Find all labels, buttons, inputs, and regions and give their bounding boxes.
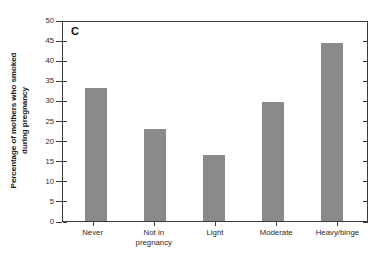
y-tick-label-5: 5 xyxy=(28,198,54,206)
bar-never xyxy=(85,88,107,222)
y-tick-inner-25 xyxy=(63,121,67,122)
x-tick-4 xyxy=(337,222,338,226)
y-tick-10 xyxy=(56,181,62,182)
x-tick-3 xyxy=(276,222,277,226)
y-tick-30 xyxy=(56,101,62,102)
y-tick-label-40: 40 xyxy=(28,57,54,65)
y-tick-right-50 xyxy=(363,21,368,22)
y-tick-label-35: 35 xyxy=(28,77,54,85)
y-tick-right-45 xyxy=(363,41,368,42)
y-axis-title-line1: Percentage of mothers who smoked xyxy=(10,52,21,188)
y-tick-35 xyxy=(56,81,62,82)
bars-layer xyxy=(62,21,368,222)
bar-light xyxy=(203,155,225,221)
y-tick-inner-10 xyxy=(63,181,67,182)
y-tick-inner-5 xyxy=(63,201,67,202)
bar-moderate xyxy=(262,102,284,221)
x-tick-label-0-line1: Never xyxy=(82,228,103,237)
y-tick-label-50: 50 xyxy=(28,17,54,25)
y-tick-label-25: 25 xyxy=(28,118,54,126)
y-tick-label-30: 30 xyxy=(28,97,54,105)
y-tick-label-15: 15 xyxy=(28,158,54,166)
panel-label: C xyxy=(71,26,79,37)
bar-heavy-binge xyxy=(321,43,343,221)
y-tick-right-35 xyxy=(363,81,368,82)
y-tick-45 xyxy=(56,41,62,42)
y-tick-right-40 xyxy=(363,61,368,62)
y-tick-right-25 xyxy=(363,121,368,122)
x-tick-1 xyxy=(154,222,155,226)
y-tick-right-15 xyxy=(363,161,368,162)
x-tick-2 xyxy=(215,222,216,226)
x-tick-0 xyxy=(93,222,94,226)
y-tick-50 xyxy=(56,21,62,22)
y-tick-label-45: 45 xyxy=(28,37,54,45)
y-tick-inner-20 xyxy=(63,141,67,142)
y-tick-inner-15 xyxy=(63,161,67,162)
x-tick-label-4-line1: Heavy/binge xyxy=(316,228,359,237)
y-tick-label-20: 20 xyxy=(28,138,54,146)
y-tick-20 xyxy=(56,141,62,142)
y-tick-label-0: 0 xyxy=(28,218,54,226)
y-tick-15 xyxy=(56,161,62,162)
y-tick-inner-35 xyxy=(63,81,67,82)
x-tick-label-2-line1: Light xyxy=(207,228,224,237)
y-tick-right-30 xyxy=(363,101,368,102)
x-tick-label-4: Heavy/binge xyxy=(299,228,375,238)
y-tick-right-0 xyxy=(363,222,368,223)
y-tick-right-5 xyxy=(363,201,368,202)
y-tick-label-10: 10 xyxy=(28,178,54,186)
y-tick-inner-40 xyxy=(63,61,67,62)
y-tick-inner-45 xyxy=(63,41,67,42)
x-tick-label-3-line1: Moderate xyxy=(260,228,293,237)
y-tick-inner-30 xyxy=(63,101,67,102)
y-tick-right-10 xyxy=(363,181,368,182)
x-tick-label-1-line1: Not in xyxy=(144,228,164,237)
x-tick-label-1-line2: pregnancy xyxy=(116,238,192,248)
bar-chart-figure: Percentage of mothers who smoked during … xyxy=(0,0,382,264)
y-tick-right-20 xyxy=(363,141,368,142)
y-tick-40 xyxy=(56,61,62,62)
y-tick-inner-0 xyxy=(63,222,67,223)
y-tick-inner-50 xyxy=(63,21,67,22)
bar-not-in-pregnancy xyxy=(144,129,166,221)
y-tick-0 xyxy=(56,222,62,223)
y-tick-5 xyxy=(56,201,62,202)
y-tick-25 xyxy=(56,121,62,122)
